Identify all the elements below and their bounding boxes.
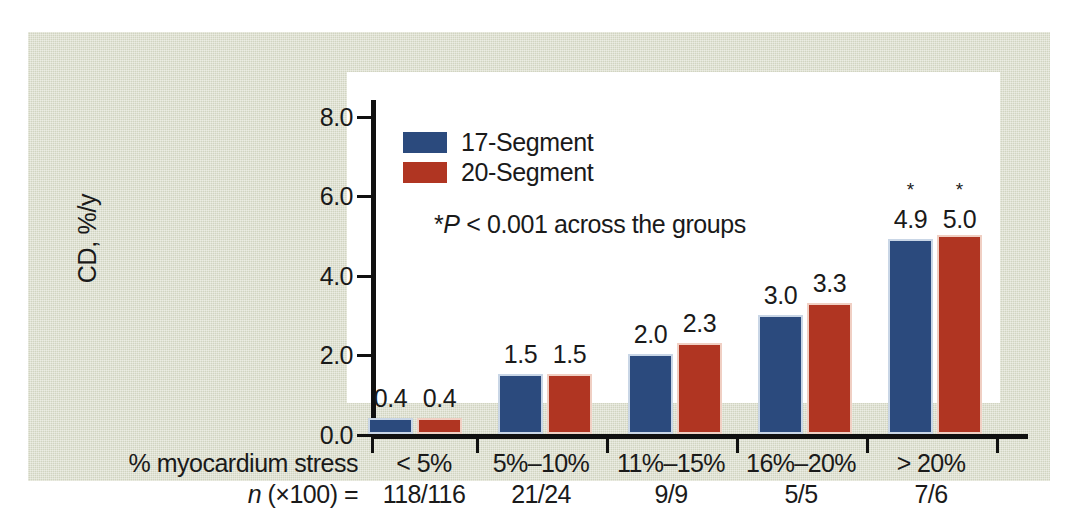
- y-tick-6: [357, 195, 372, 198]
- y-axis-tick-label-4: 4.0: [291, 262, 353, 291]
- figure-panel: 8.0 6.0 4.0 2.0 0.0 CD, %/y 17-Segment 2…: [28, 32, 1050, 481]
- bar-value-20-segment-group-5: 5.0: [927, 205, 992, 234]
- annotation-asterisk: *: [434, 210, 443, 238]
- y-axis-tick-label-2: 2.0: [291, 341, 353, 370]
- x-axis-category-label-1: < 5%: [369, 449, 479, 478]
- y-axis-title: CD, %/y: [73, 164, 102, 314]
- bar-value-20-segment-group-2: 1.5: [537, 340, 602, 369]
- legend-swatch-20-segment: [403, 162, 447, 183]
- bar-value-20-segment-group-1: 0.4: [407, 384, 472, 413]
- bar-20-segment-group-4: [807, 303, 852, 434]
- x-tick-5: [996, 437, 999, 453]
- legend-item-17-segment: 17-Segment: [403, 127, 593, 157]
- y-tick-8: [357, 116, 372, 119]
- x-axis-category-label-3: 11%–15%: [606, 449, 736, 478]
- bar-value-20-segment-group-3: 2.3: [667, 309, 732, 338]
- x-axis-row-label-myocardium-stress: % myocardium stress: [58, 449, 358, 478]
- bar-17-segment-group-4: [758, 315, 803, 434]
- bar-17-segment-group-1: [368, 418, 413, 434]
- chart-legend: 17-Segment 20-Segment: [403, 127, 593, 187]
- x-axis-sample-size-4: 5/5: [736, 480, 866, 509]
- y-tick-0: [357, 434, 372, 437]
- x-axis-sample-size-1: 118/116: [369, 480, 479, 509]
- x-axis-category-label-4: 16%–20%: [736, 449, 866, 478]
- x-axis-category-label-2: 5%–10%: [476, 449, 606, 478]
- x-axis-sample-size-2: 21/24: [476, 480, 606, 509]
- bar-20-segment-group-3: [677, 343, 722, 434]
- y-axis-tick-label-6: 6.0: [291, 182, 353, 211]
- bar-20-segment-group-1: [417, 418, 462, 434]
- sample-size-label-rest: (×100) =: [261, 480, 358, 508]
- legend-item-20-segment: 20-Segment: [403, 157, 593, 187]
- bar-17-segment-group-5: [888, 239, 933, 434]
- x-axis-category-label-5: > 20%: [866, 449, 996, 478]
- legend-label-17-segment: 17-Segment: [461, 128, 593, 157]
- x-axis-line: [371, 434, 1028, 439]
- x-axis-sample-size-3: 9/9: [606, 480, 736, 509]
- y-tick-4: [357, 275, 372, 278]
- x-axis-sample-size-5: 7/6: [866, 480, 996, 509]
- bar-value-20-segment-group-4: 3.3: [797, 269, 862, 298]
- annotation-text: < 0.001 across the groups: [460, 210, 746, 238]
- x-axis-row-label-sample-size: n (×100) =: [58, 480, 358, 509]
- y-tick-2: [357, 354, 372, 357]
- bar-20-segment-group-5: [937, 235, 982, 434]
- sample-size-n-symbol: n: [248, 480, 261, 508]
- bar-17-segment-group-2: [498, 374, 543, 434]
- bar-significance-marker-20-segment-group-5: *: [927, 180, 992, 199]
- bar-17-segment-group-3: [628, 354, 673, 434]
- significance-annotation: *P < 0.001 across the groups: [434, 210, 746, 239]
- y-axis-tick-label-8: 8.0: [291, 103, 353, 132]
- legend-swatch-17-segment: [403, 132, 447, 153]
- annotation-p-symbol: P: [443, 210, 459, 238]
- bar-20-segment-group-2: [547, 374, 592, 434]
- y-axis-tick-label-0: 0.0: [291, 421, 353, 450]
- legend-label-20-segment: 20-Segment: [461, 158, 593, 187]
